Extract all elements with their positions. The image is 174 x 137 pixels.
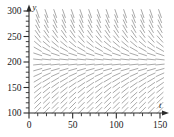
slope-mark <box>94 59 103 60</box>
slope-mark <box>42 73 50 77</box>
slope-mark <box>51 73 59 77</box>
slope-mark <box>69 92 76 98</box>
slope-mark <box>51 68 60 71</box>
slope-mark <box>42 59 51 60</box>
slope-mark <box>156 73 164 77</box>
slope-mark <box>51 47 59 52</box>
slope-mark <box>77 59 86 60</box>
slope-mark <box>69 47 77 52</box>
slope-mark <box>156 47 164 52</box>
y-tick-label: 250 <box>7 32 22 42</box>
slope-mark <box>156 87 163 93</box>
slope-mark <box>129 53 138 56</box>
slope-mark <box>120 64 129 65</box>
slope-mark <box>122 87 129 93</box>
slope-mark <box>129 64 138 65</box>
slope-mark <box>52 87 59 93</box>
slope-mark <box>104 82 112 87</box>
slope-mark <box>87 87 94 93</box>
slope-mark <box>86 53 95 56</box>
slope-field-plot: 100150200250300050100150yt <box>0 0 174 137</box>
slope-mark <box>112 68 121 71</box>
slope-mark <box>138 64 147 65</box>
slope-mark <box>69 78 77 83</box>
slope-mark <box>77 47 85 52</box>
slope-mark <box>147 64 156 65</box>
slope-mark <box>138 53 147 56</box>
slope-mark <box>34 92 41 98</box>
slope-mark <box>147 53 156 56</box>
slope-mark <box>112 59 121 60</box>
slope-mark <box>43 87 50 93</box>
slope-mark <box>113 92 120 98</box>
slope-mark <box>121 68 130 71</box>
slope-mark <box>95 92 102 98</box>
slope-mark <box>139 87 146 93</box>
slope-mark <box>156 68 165 71</box>
slope-mark <box>112 64 121 65</box>
slope-mark <box>77 53 86 56</box>
slope-mark <box>61 92 68 98</box>
slope-mark <box>60 82 67 87</box>
slope-mark <box>33 68 42 71</box>
y-axis-label: y <box>32 2 37 12</box>
y-tick-label: 200 <box>7 57 22 67</box>
slope-mark <box>139 82 146 87</box>
slope-mark <box>95 73 103 77</box>
slope-mark <box>34 47 42 52</box>
slope-mark <box>43 92 50 98</box>
slope-mark <box>130 73 138 77</box>
slope-mark <box>68 59 77 60</box>
slope-mark <box>103 59 112 60</box>
slope-mark <box>77 78 85 83</box>
slope-mark <box>68 53 77 56</box>
slope-mark <box>43 78 51 83</box>
slope-mark <box>86 59 95 60</box>
slope-mark <box>156 53 165 56</box>
slope-mark <box>121 73 129 77</box>
slope-mark <box>138 68 147 71</box>
slope-mark <box>113 82 120 87</box>
slope-mark <box>78 82 86 87</box>
slope-mark <box>34 78 42 83</box>
slope-mark <box>130 87 137 93</box>
slope-mark <box>95 82 102 87</box>
slope-mark <box>147 73 155 77</box>
slope-mark <box>60 87 67 93</box>
slope-mark <box>68 73 76 77</box>
slope-mark <box>34 87 41 93</box>
slope-mark <box>130 92 137 98</box>
x-axis-arrow <box>162 110 169 115</box>
slope-mark <box>147 47 155 52</box>
slope-mark <box>121 47 129 52</box>
slope-mark <box>60 47 68 52</box>
slope-mark <box>113 87 120 93</box>
slope-mark <box>157 92 164 98</box>
slope-mark <box>103 64 112 65</box>
slope-mark <box>95 47 103 52</box>
slope-mark <box>60 78 68 83</box>
slope-mark <box>86 64 95 65</box>
slope-mark <box>139 78 147 83</box>
slope-mark <box>51 82 59 87</box>
slope-mark <box>104 78 112 83</box>
slope-mark <box>112 73 120 77</box>
slope-mark <box>139 47 147 52</box>
slope-mark <box>121 82 128 87</box>
slope-mark <box>138 59 147 60</box>
slope-mark <box>130 82 138 87</box>
slope-mark <box>121 53 130 56</box>
slope-mark <box>104 87 111 93</box>
slope-mark <box>103 68 112 71</box>
slope-mark <box>121 78 129 83</box>
slope-mark <box>34 73 42 77</box>
slope-mark <box>86 78 94 83</box>
slope-mark <box>86 68 95 71</box>
slope-mark <box>138 73 146 77</box>
slope-mark <box>68 68 77 71</box>
y-tick-label: 150 <box>7 83 22 93</box>
slope-mark <box>130 47 138 52</box>
slope-mark <box>60 53 69 56</box>
slope-mark <box>42 64 51 65</box>
slope-mark <box>51 53 60 56</box>
